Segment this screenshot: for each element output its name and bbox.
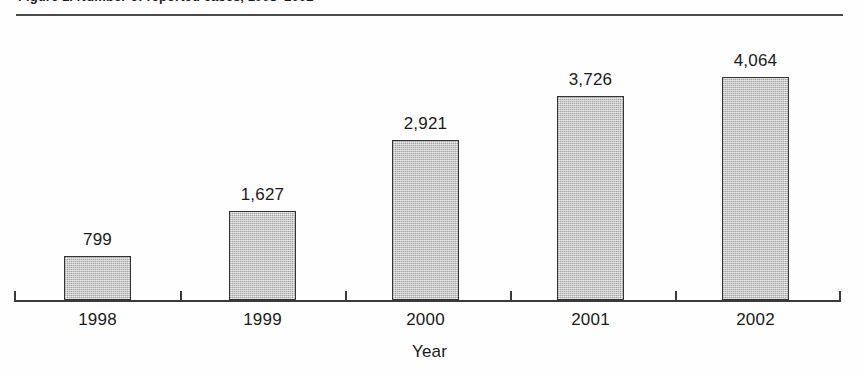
value-label-2001: 3,726 — [540, 70, 641, 90]
value-label-2002: 4,064 — [705, 51, 806, 71]
bar-2001 — [557, 96, 624, 300]
x-axis-tick-3 — [510, 291, 512, 301]
value-label-1999: 1,627 — [212, 185, 313, 205]
x-axis-tick-start — [14, 291, 16, 301]
x-tick-label-2002: 2002 — [705, 310, 806, 330]
bar-2000 — [392, 140, 459, 300]
x-axis-title: Year — [0, 342, 859, 362]
bar-1999 — [229, 211, 296, 300]
bar-chart-plot: 799 1,627 2,921 3,726 4,064 1998 1999 20… — [0, 0, 859, 377]
figure-container: Figure 1. Number of reported cases, 1998… — [0, 0, 859, 377]
x-axis-tick-4 — [675, 291, 677, 301]
x-tick-label-1999: 1999 — [212, 310, 313, 330]
value-label-2000: 2,921 — [375, 114, 476, 134]
x-tick-label-2001: 2001 — [540, 310, 641, 330]
value-label-1998: 799 — [47, 230, 148, 250]
bar-2002 — [722, 77, 789, 300]
x-axis-line — [14, 300, 841, 302]
x-tick-label-2000: 2000 — [375, 310, 476, 330]
x-axis-tick-end — [839, 291, 841, 301]
x-tick-label-1998: 1998 — [47, 310, 148, 330]
x-axis-tick-1 — [180, 291, 182, 301]
bar-1998 — [64, 256, 131, 300]
x-axis-tick-2 — [345, 291, 347, 301]
